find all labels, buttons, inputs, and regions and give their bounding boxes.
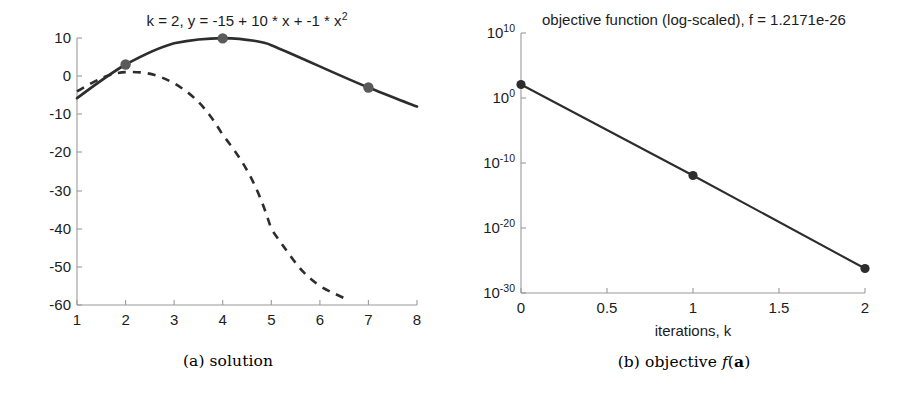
y-ticks-solution <box>77 38 82 305</box>
caption-math-arg: a <box>734 352 744 371</box>
y-tick-label: 0 <box>63 67 71 84</box>
series-dashed-previous-iterate <box>77 72 348 300</box>
caption-solution: (a) solution <box>0 352 456 370</box>
caption-math-paren-close: ) <box>744 353 750 371</box>
caption-text-b: objective <box>645 353 717 371</box>
x-tick-label: 7 <box>364 311 372 328</box>
axis-lines-objective <box>521 33 865 293</box>
x-tick-label: 6 <box>316 311 324 328</box>
x-ticks-solution <box>77 300 417 305</box>
y-ticks-objective <box>521 33 526 293</box>
x-tick-label: 0.5 <box>597 299 618 316</box>
series-solid-fitted-quadratic <box>77 38 417 106</box>
y-tick-label: 1010 <box>487 22 516 41</box>
x-tick-label: 1 <box>689 299 697 316</box>
x-tick-label: 0 <box>517 299 525 316</box>
chart-objective: objective function (log-scaled), f = 1.2… <box>456 0 912 340</box>
x-tick-label: 2 <box>121 311 129 328</box>
x-tick-label: 1 <box>73 311 81 328</box>
y-tick-label: 10-30 <box>483 282 515 301</box>
caption-label-a: (a) <box>183 352 205 370</box>
caption-label-b: (b) <box>618 353 640 371</box>
chart-solution: k = 2, y = -15 + 10 * x + -1 * x2 <box>0 0 456 340</box>
y-tick-labels-objective: 1010 100 10-10 10-20 10-30 <box>483 22 515 301</box>
x-axis-label-objective: iterations, k <box>655 322 732 339</box>
y-tick-label: 100 <box>492 87 515 106</box>
y-tick-label: -30 <box>49 182 71 199</box>
y-tick-label: 10-10 <box>483 152 515 171</box>
x-ticks-objective <box>521 288 865 293</box>
x-tick-label: 3 <box>170 311 178 328</box>
x-tick-labels-solution: 1 2 3 4 5 6 7 8 <box>73 311 421 328</box>
x-tick-label: 8 <box>413 311 421 328</box>
y-tick-label: 10-20 <box>483 217 515 236</box>
plot-area-objective: objective function (log-scaled), f = 1.2… <box>456 0 912 340</box>
chart-title-solution: k = 2, y = -15 + 10 * x + -1 * x2 <box>147 10 348 29</box>
panel-solution: k = 2, y = -15 + 10 * x + -1 * x2 <box>0 0 456 407</box>
y-tick-label: -10 <box>49 105 71 122</box>
chart-title-objective: objective function (log-scaled), f = 1.2… <box>542 11 846 28</box>
plot-area-solution: k = 2, y = -15 + 10 * x + -1 * x2 <box>0 0 456 340</box>
y-tick-labels-solution: 10 0 -10 -20 -30 -40 -50 -60 <box>49 29 71 313</box>
axis-lines-solution <box>77 38 417 305</box>
x-tick-label: 5 <box>267 311 275 328</box>
y-tick-label: -40 <box>49 220 71 237</box>
x-tick-label: 4 <box>219 311 227 328</box>
figure-container: k = 2, y = -15 + 10 * x + -1 * x2 <box>0 0 912 407</box>
x-tick-labels-objective: 0 0.5 1 1.5 2 <box>517 299 869 316</box>
series-markers-sample-points <box>120 33 373 93</box>
x-tick-label: 2 <box>861 299 869 316</box>
caption-text-a: solution <box>210 352 274 370</box>
panel-objective: objective function (log-scaled), f = 1.2… <box>456 0 912 407</box>
series-objective-markers <box>516 80 869 273</box>
y-tick-label: -50 <box>49 258 71 275</box>
y-tick-label: -20 <box>49 143 71 160</box>
x-tick-label: 1.5 <box>769 299 790 316</box>
y-tick-label: -60 <box>49 296 71 313</box>
caption-objective: (b) objective f(a) <box>456 352 912 371</box>
y-tick-label: 10 <box>54 29 71 46</box>
